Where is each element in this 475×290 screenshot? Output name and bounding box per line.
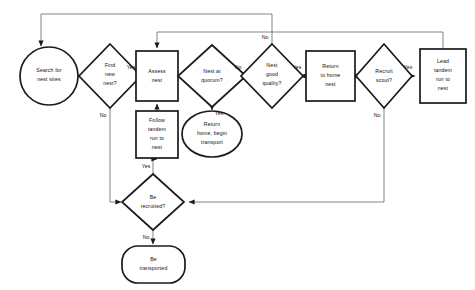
edge-label-quality-no: No xyxy=(262,34,269,40)
edge-label-recruited-no: No xyxy=(143,234,150,240)
node-find-new-nest[interactable]: Find new nest? xyxy=(79,44,141,108)
node-label-line: nest xyxy=(438,85,449,91)
node-label-line: quorum? xyxy=(201,77,223,83)
node-label-line: recruited? xyxy=(141,203,166,209)
node-label-line: Be xyxy=(150,194,157,200)
edge-quality-no-to-search xyxy=(41,14,272,46)
node-label-line: Find xyxy=(105,62,116,68)
edge-label-find-no: No xyxy=(100,112,107,118)
node-label-line: quality? xyxy=(262,80,281,86)
node-layer: Search for nest sites Find new nest? Ass… xyxy=(20,44,466,283)
node-label-line: Recruit xyxy=(375,68,393,74)
node-label-line: Nest xyxy=(266,62,278,68)
edge-find-no-to-be-recruited xyxy=(110,108,121,202)
node-label-line: Search for xyxy=(36,67,62,73)
node-assess-nest[interactable]: Assess nest xyxy=(136,51,178,101)
node-label-line: nest xyxy=(152,77,163,83)
edge-label-recruit-yes: Yes xyxy=(404,64,413,70)
node-label-line: nest sites xyxy=(37,76,61,82)
node-search-for-nest-sites[interactable]: Search for nest sites xyxy=(20,47,78,105)
node-label-line: nest xyxy=(152,144,163,150)
edge-label-quorum-no: No xyxy=(235,64,242,70)
node-label-line: scout? xyxy=(376,77,392,83)
node-label-line: Follow xyxy=(149,117,165,123)
node-label-line: tandem xyxy=(434,67,452,73)
node-label-line: Return xyxy=(322,63,338,69)
flowchart-canvas: Search for nest sites Find new nest? Ass… xyxy=(0,0,475,290)
node-follow-tandem-run-to-nest[interactable]: Follow tandem run to nest xyxy=(136,111,178,158)
edge-label-recruited-yes: Yes xyxy=(142,163,151,169)
node-nest-at-quorum[interactable]: Nest at quorum? xyxy=(178,45,246,107)
node-label-line: Assess xyxy=(148,68,166,74)
node-label-line: run to xyxy=(436,76,450,82)
node-return-home-begin-transport[interactable]: Return home, begin transport xyxy=(182,111,242,157)
node-label-line: Nest at xyxy=(203,68,221,74)
node-label-line: nest xyxy=(325,81,336,87)
node-return-to-home-nest[interactable]: Return to home nest xyxy=(306,51,355,101)
node-label-line: to home xyxy=(321,72,341,78)
node-nest-good-quality[interactable]: Nest good quality? xyxy=(241,44,303,108)
node-recruit-scout[interactable]: Recruit scout? xyxy=(356,44,412,108)
edge-label-quality-yes: Yes xyxy=(293,64,302,70)
edge-label-find-yes: Yes xyxy=(127,64,136,70)
node-label-line: transported xyxy=(140,265,168,271)
node-label-line: good xyxy=(266,71,278,77)
node-lead-tandem-run-to-nest[interactable]: Lead tandem run to nest xyxy=(420,49,466,103)
node-label-line: nest? xyxy=(103,80,116,86)
node-label-line: Return xyxy=(204,121,220,127)
node-be-transported[interactable]: Be transported xyxy=(122,246,185,283)
edge-lead-to-assess xyxy=(157,32,443,49)
node-label-line: tandem xyxy=(148,126,166,132)
edge-recruited-yes-to-follow xyxy=(153,159,157,174)
node-label-line: Be xyxy=(150,256,157,262)
node-be-recruited[interactable]: Be recruited? xyxy=(122,174,184,230)
edge-label-recruit-no: No xyxy=(374,112,381,118)
flowchart-svg: Search for nest sites Find new nest? Ass… xyxy=(0,0,475,290)
node-label-line: home, begin xyxy=(197,130,227,136)
edge-label-quorum-yes: Yes xyxy=(215,110,224,116)
node-label-line: run to xyxy=(150,135,164,141)
node-label-line: Lead xyxy=(437,58,449,64)
node-label-line: transport xyxy=(201,139,223,145)
node-label-line: new xyxy=(105,71,115,77)
